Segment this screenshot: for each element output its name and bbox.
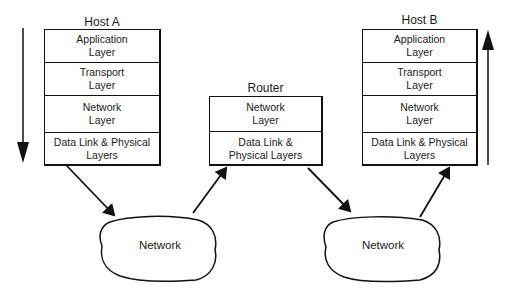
arrow-router-to-network2-icon (308, 168, 350, 211)
network-cloud-2-label: Network (333, 239, 433, 251)
host-a-down-arrow-icon (17, 28, 29, 163)
arrow-network1-to-router-icon (193, 168, 226, 213)
arrow-network2-to-hostb-icon (420, 168, 449, 217)
network-cloud-1-label: Network (110, 239, 210, 251)
host-b-up-arrow-icon (482, 30, 494, 165)
arrow-hosta-to-network1-icon (67, 166, 114, 215)
diagram-connections (0, 0, 512, 296)
